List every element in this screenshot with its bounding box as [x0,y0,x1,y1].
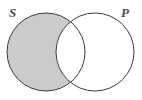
circle-label-p: P [121,6,129,19]
venn-diagram-figure: S P [0,0,142,100]
circle-label-s: S [9,6,16,19]
